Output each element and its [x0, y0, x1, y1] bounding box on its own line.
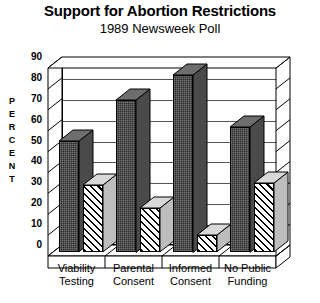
x-label-1: ParentalConsent [105, 262, 162, 288]
plot-area [48, 46, 306, 256]
x-axis-category-labels: ViabilityTestingParentalConsentInformedC… [48, 262, 306, 302]
y-tick-label-70: 70 [20, 94, 42, 104]
x-label-2-line-1: Consent [162, 275, 219, 288]
x-label-0: ViabilityTesting [48, 262, 105, 288]
plot-top-strip [48, 57, 290, 68]
x-label-3-line-1: Funding [219, 275, 276, 288]
x-label-1-line-0: Parental [105, 262, 162, 275]
y-axis-tick-labels: 9080706050403020100 [18, 46, 42, 256]
y-tick-label-80: 80 [20, 73, 42, 83]
y-tick-label-90: 90 [20, 52, 42, 62]
y-tick-label-40: 40 [20, 156, 42, 166]
y-tick-label-0: 0 [20, 240, 42, 250]
chart-title: Support for Abortion Restrictions [0, 2, 320, 19]
y-tick-label-60: 60 [20, 115, 42, 125]
y-tick-label-10: 10 [20, 219, 42, 229]
x-label-3: No PublicFunding [219, 262, 276, 288]
x-label-1-line-1: Consent [105, 275, 162, 288]
chart-subtitle: 1989 Newsweek Poll [0, 21, 320, 36]
x-label-0-line-0: Viability [48, 262, 105, 275]
x-label-2: InformedConsent [162, 262, 219, 288]
x-label-2-line-0: Informed [162, 262, 219, 275]
x-label-0-line-1: Testing [48, 275, 105, 288]
y-tick-label-50: 50 [20, 136, 42, 146]
y-tick-label-20: 20 [20, 198, 42, 208]
y-tick-label-30: 30 [20, 177, 42, 187]
plot-3d-frame [48, 46, 306, 256]
bar-chart: Support for Abortion Restrictions 1989 N… [0, 0, 320, 303]
x-label-3-line-0: No Public [219, 262, 276, 275]
